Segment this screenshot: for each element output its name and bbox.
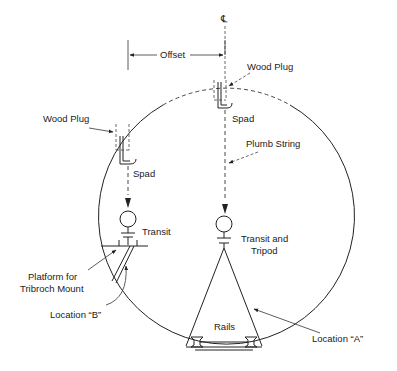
wood-plug-left-label: Wood Plug — [43, 113, 89, 124]
centerline-symbol: ℄ — [220, 13, 228, 24]
tunnel-diagram: ℄ Offset Wood Plug Spad Plumb String Tra… — [0, 0, 397, 371]
plumb-string-label: Plumb String — [246, 138, 300, 149]
spad-top-label: Spad — [232, 113, 254, 124]
transit-left-icon — [120, 211, 136, 245]
top-wood-plug — [214, 80, 226, 102]
spad-left-label: Spad — [133, 168, 155, 179]
rails-label: Rails — [214, 321, 235, 332]
left-spad-icon — [120, 149, 136, 164]
location-a-label: Location “A” — [312, 333, 363, 344]
transit-and-tripod-label-1: Transit and — [241, 233, 288, 244]
plumb-bob-center-icon — [222, 204, 228, 214]
transit-center-icon — [216, 216, 232, 248]
offset-label: Offset — [160, 49, 186, 60]
plumb-bob-left-icon — [125, 198, 131, 208]
rails-icon — [186, 337, 262, 350]
transit-and-tripod-label-2: Tripod — [251, 245, 278, 256]
platform-label-2: Tribroch Mount — [20, 283, 84, 294]
wood-plug-top-label: Wood Plug — [247, 61, 293, 72]
transit-left-label: Transit — [142, 226, 171, 237]
platform-label-1: Platform for — [28, 271, 77, 282]
platform — [101, 240, 148, 283]
location-b-label: Location “B” — [50, 309, 101, 320]
offset-dimension: Offset — [128, 40, 225, 70]
